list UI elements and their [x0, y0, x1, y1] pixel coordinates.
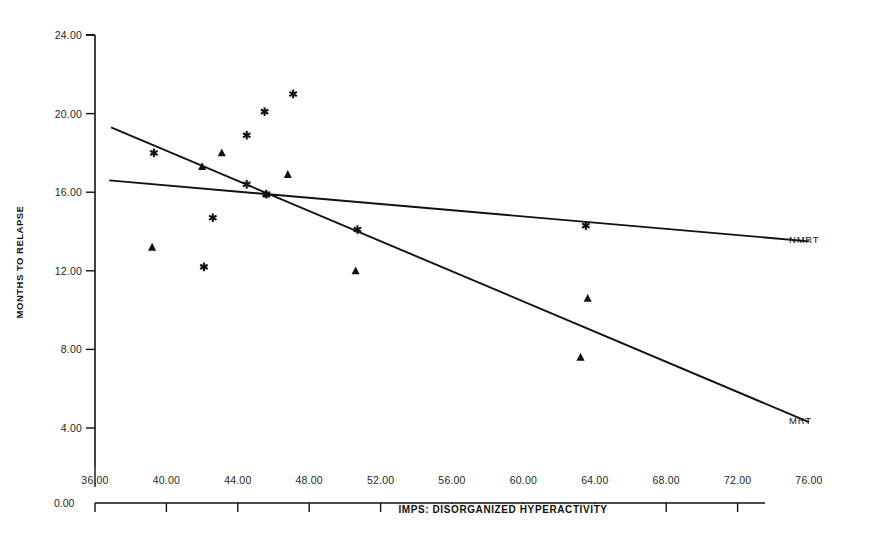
data-point-asterisk — [150, 149, 157, 158]
data-point-triangle — [148, 243, 156, 251]
axes — [86, 35, 765, 503]
x-tick-label: 64.00 — [581, 474, 608, 486]
y-tick-label: 20.00 — [30, 108, 82, 120]
series-label-nmrt: NMRT — [789, 234, 819, 245]
x-tick-label: 76.00 — [795, 474, 822, 486]
data-point-asterisk — [261, 107, 268, 116]
y-axis-ticks — [86, 35, 95, 428]
x-tick-label: 60.00 — [510, 474, 537, 486]
y-tick-label: 12.00 — [30, 265, 82, 277]
data-point-triangle — [352, 266, 360, 274]
data-point-asterisk — [200, 263, 207, 272]
data-point-triangle — [576, 353, 584, 361]
data-point-triangle — [284, 170, 292, 178]
x-tick-label: 48.00 — [296, 474, 323, 486]
x-axis-title: IMPS: DISORGANIZED HYPERACTIVITY — [393, 504, 612, 515]
data-point-triangle — [584, 294, 592, 302]
x-tick-label: 52.00 — [367, 474, 394, 486]
origin-tick-label: 0.00 — [54, 497, 74, 509]
y-tick-label: 4.00 — [30, 422, 82, 434]
regression-line-nmrt — [109, 180, 809, 241]
scatter-plot-figure: 24.0020.0016.0012.008.004.00 36.0040.004… — [0, 0, 877, 552]
data-points — [148, 90, 592, 361]
data-point-asterisk — [209, 213, 216, 222]
x-tick-label: 72.00 — [724, 474, 751, 486]
y-axis-title: MONTHS TO RELAPSE — [14, 206, 25, 319]
y-tick-label: 24.00 — [30, 29, 82, 41]
y-tick-label: 16.00 — [30, 186, 82, 198]
x-tick-label: 56.00 — [438, 474, 465, 486]
regression-line-mrt — [111, 127, 809, 422]
data-point-asterisk — [243, 131, 250, 140]
x-tick-label: 68.00 — [653, 474, 680, 486]
series-label-mrt: MRT — [789, 415, 812, 426]
x-tick-label: 40.00 — [153, 474, 180, 486]
y-tick-label: 8.00 — [30, 343, 82, 355]
data-point-asterisk — [289, 90, 296, 99]
x-tick-label: 44.00 — [224, 474, 251, 486]
plot-canvas — [0, 0, 877, 552]
data-point-triangle — [218, 149, 226, 157]
x-tick-label: 36.00 — [81, 474, 108, 486]
regression-lines — [109, 127, 809, 422]
